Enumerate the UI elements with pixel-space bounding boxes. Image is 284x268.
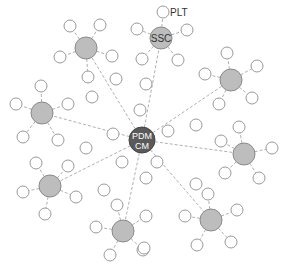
cluster-to-leaf-edge xyxy=(92,30,97,38)
cluster-to-leaf-edge xyxy=(162,18,163,27)
leaf-node xyxy=(17,186,29,198)
leaf-node xyxy=(98,184,110,196)
cluster-node-right xyxy=(233,143,255,165)
cluster-to-leaf-edge xyxy=(27,122,35,133)
leaf-node xyxy=(215,135,227,147)
hub-label-line2: CM xyxy=(135,141,149,151)
cluster-label: SSC xyxy=(151,33,172,44)
leaf-node xyxy=(54,51,66,63)
leaf-node xyxy=(17,131,29,143)
cluster-to-leaf-edge xyxy=(222,90,226,99)
cluster-to-leaf-edge xyxy=(191,217,200,218)
leaf-node xyxy=(191,239,203,251)
cluster-to-leaf-edge xyxy=(168,47,175,56)
leaf-node xyxy=(202,188,214,200)
cluster-to-leaf-edge xyxy=(250,163,256,173)
leaf-node xyxy=(62,98,74,110)
leaf-node xyxy=(251,60,263,72)
leaf-node xyxy=(30,157,42,169)
leaf-node xyxy=(106,50,118,62)
leaf-node xyxy=(90,221,102,233)
leaf-node xyxy=(64,20,76,32)
leaf-node xyxy=(131,23,143,35)
leaf-node xyxy=(233,121,245,133)
cluster-to-leaf-edge xyxy=(29,188,39,190)
cluster-to-leaf-edge xyxy=(118,211,120,220)
leaf-node xyxy=(199,68,211,80)
leaf-node xyxy=(140,210,152,222)
leaf-node xyxy=(86,91,98,103)
leaf-node xyxy=(82,71,94,83)
leaf-node xyxy=(190,119,202,131)
diagram-canvas: PLT SSC PDMCM xyxy=(0,0,284,268)
cluster-to-leaf-edge xyxy=(211,75,220,77)
leaf-node xyxy=(172,54,184,66)
leaf-node xyxy=(253,172,265,184)
leaf-node xyxy=(140,172,152,184)
cluster-to-leaf-edge xyxy=(229,162,236,169)
hub-node-layer: PDMCM xyxy=(129,127,155,153)
cluster-to-leaf-edge xyxy=(209,200,210,209)
leaf-node xyxy=(136,53,148,65)
cluster-to-leaf-edge xyxy=(200,230,206,240)
leaf-node xyxy=(94,19,106,31)
cluster-node-top-left xyxy=(75,37,97,59)
cluster-to-leaf-edge xyxy=(60,190,70,194)
cluster-node-upper-right xyxy=(220,69,242,91)
leaf-node xyxy=(266,142,278,154)
hub-leaf-node xyxy=(116,156,128,168)
leaf-label: PLT xyxy=(170,7,188,18)
leaf-node xyxy=(39,208,51,220)
cluster-to-leaf-edge xyxy=(22,106,32,109)
leaf-node xyxy=(179,210,191,222)
hub-leaf-node xyxy=(134,104,146,116)
leaf-node xyxy=(219,167,231,179)
cluster-to-leaf-edge xyxy=(87,59,88,71)
cluster-to-leaf-edge xyxy=(97,51,107,54)
cluster-to-leaf-edge xyxy=(241,69,252,75)
hub-to-cluster-edge xyxy=(92,57,136,128)
cluster-to-leaf-edge xyxy=(146,46,154,54)
cluster-node-lower-left xyxy=(39,175,61,197)
cluster-to-leaf-edge xyxy=(221,212,231,216)
cluster-to-leaf-edge xyxy=(74,31,80,39)
leaf-node xyxy=(35,80,47,92)
cluster-to-leaf-edge xyxy=(218,228,227,237)
leaf-node xyxy=(70,191,82,203)
cluster-to-leaf-edge xyxy=(66,52,76,55)
cluster-to-leaf-edge xyxy=(131,239,139,246)
leaf-node xyxy=(157,6,169,18)
leaf-node xyxy=(52,134,64,146)
leaf-node xyxy=(111,199,123,211)
leaf-node xyxy=(213,98,225,110)
hub-to-cluster-edge xyxy=(153,86,222,133)
cluster-to-leaf-edge xyxy=(255,149,266,151)
cluster-to-leaf-edge xyxy=(48,122,55,134)
cluster-to-leaf-edge xyxy=(240,133,242,143)
hub-leaf-node xyxy=(107,128,119,140)
cluster-to-leaf-edge xyxy=(52,106,62,109)
cluster-to-leaf-edge xyxy=(143,31,151,34)
cluster-to-leaf-edge xyxy=(102,228,112,230)
cluster-to-leaf-edge xyxy=(39,168,44,176)
leaf-node xyxy=(62,160,74,172)
cluster-to-leaf-edge xyxy=(228,59,230,69)
hub-leaf-node xyxy=(151,156,163,168)
network-diagram: PLT SSC PDMCM xyxy=(0,0,284,268)
cluster-to-leaf-edge xyxy=(239,87,247,94)
cluster-node-bottom xyxy=(112,220,134,242)
leaf-node xyxy=(140,78,152,90)
leaf-node xyxy=(138,242,150,254)
leaf-node xyxy=(80,142,92,154)
leaf-node xyxy=(231,204,243,216)
cluster-to-leaf-edge xyxy=(57,170,64,177)
leaf-node xyxy=(10,98,22,110)
leaf-node xyxy=(104,249,116,261)
cluster-to-leaf-edge xyxy=(132,219,141,225)
leaf-node xyxy=(181,24,193,36)
hub-leaf-node xyxy=(162,125,174,137)
leaf-node xyxy=(246,92,258,104)
leaf-node xyxy=(225,236,237,248)
cluster-node-left xyxy=(31,102,53,124)
hub-label-line1: PDM xyxy=(132,131,152,141)
